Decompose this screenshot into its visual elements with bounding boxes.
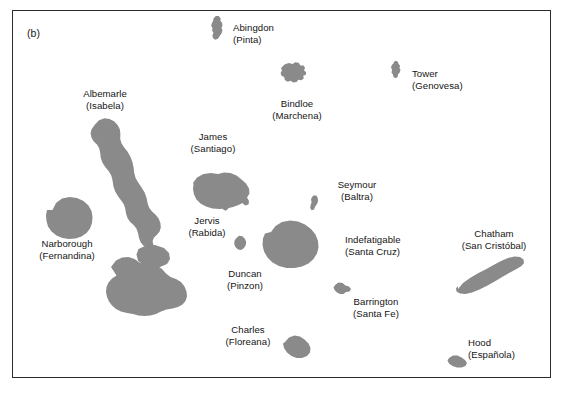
island-label-charles-english: Charles xyxy=(226,324,271,336)
island-label-tower: Tower (Genovesa) xyxy=(412,68,463,91)
island-label-narborough-english: Narborough xyxy=(39,238,95,250)
island-label-narborough-spanish: (Fernandina) xyxy=(39,250,95,262)
island-label-bindloe-english: Bindloe xyxy=(272,98,322,110)
island-label-narborough: Narborough (Fernandina) xyxy=(39,238,95,261)
island-label-duncan: Duncan (Pinzon) xyxy=(227,268,263,291)
island-label-charles: Charles (Floreana) xyxy=(226,324,271,347)
island-label-barrington: Barrington (Santa Fe) xyxy=(353,296,399,319)
island-label-indefatigable-english: Indefatigable xyxy=(345,234,401,246)
island-label-jervis-spanish: (Rabida) xyxy=(188,227,225,239)
island-label-albemarle: Albemarle (Isabela) xyxy=(83,88,127,111)
island-label-chatham-spanish: (San Cristóbal) xyxy=(462,240,527,252)
island-label-james: James (Santiago) xyxy=(191,131,236,154)
island-label-chatham-english: Chatham xyxy=(462,228,527,240)
island-label-duncan-english: Duncan xyxy=(227,268,263,280)
island-label-hood: Hood (Española) xyxy=(468,337,515,360)
island-label-seymour: Seymour (Baltra) xyxy=(338,179,377,202)
island-label-chatham: Chatham (San Cristóbal) xyxy=(462,228,527,251)
island-label-hood-english: Hood xyxy=(468,337,515,349)
panel-letter: (b) xyxy=(27,27,40,39)
island-label-tower-english: Tower xyxy=(412,68,463,80)
island-label-james-spanish: (Santiago) xyxy=(191,143,236,155)
island-label-hood-spanish: (Española) xyxy=(468,349,515,361)
island-label-indefatigable: Indefatigable (Santa Cruz) xyxy=(345,234,401,257)
island-label-seymour-english: Seymour xyxy=(338,179,377,191)
island-label-james-english: James xyxy=(191,131,236,143)
island-label-duncan-spanish: (Pinzon) xyxy=(227,280,263,292)
island-label-tower-spanish: (Genovesa) xyxy=(412,80,463,92)
island-label-abingdon-english: Abingdon xyxy=(233,22,274,34)
island-label-barrington-spanish: (Santa Fe) xyxy=(353,308,399,320)
island-label-albemarle-spanish: (Isabela) xyxy=(83,100,127,112)
island-label-abingdon: Abingdon (Pinta) xyxy=(233,22,274,45)
island-label-bindloe: Bindloe (Marchena) xyxy=(272,98,322,121)
island-label-barrington-english: Barrington xyxy=(353,296,399,308)
island-label-jervis-english: Jervis xyxy=(188,215,225,227)
island-label-albemarle-english: Albemarle xyxy=(83,88,127,100)
island-label-jervis: Jervis (Rabida) xyxy=(188,215,225,238)
island-label-bindloe-spanish: (Marchena) xyxy=(272,110,322,122)
figure-panel: (b) Abingdon (Pinta) Bindloe (Marchena) … xyxy=(0,0,566,399)
island-label-abingdon-spanish: (Pinta) xyxy=(233,34,274,46)
island-label-charles-spanish: (Floreana) xyxy=(226,336,271,348)
island-label-seymour-spanish: (Baltra) xyxy=(338,191,377,203)
map-frame-border xyxy=(12,10,551,378)
island-label-indefatigable-spanish: (Santa Cruz) xyxy=(345,246,401,258)
